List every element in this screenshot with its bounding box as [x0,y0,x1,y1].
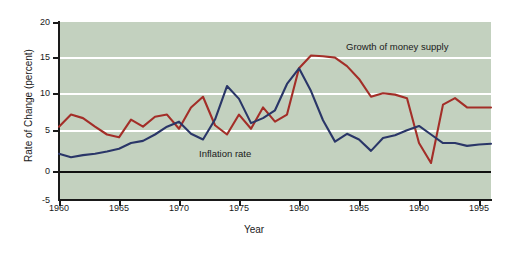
ytick-mark-10 [53,93,58,95]
ytick-mark-0 [53,171,58,173]
xtick-label-1960: 1960 [39,203,79,213]
annotation-growth-of-money-supply: Growth of money supply [346,41,448,52]
xtick-label-1985: 1985 [339,203,379,213]
annotation-inflation-rate: Inflation rate [199,148,251,159]
ytick-mark-5 [53,130,58,132]
xtick-label-1970: 1970 [159,203,199,213]
ytick-mark-20 [53,22,58,24]
xtick-label-1990: 1990 [399,203,439,213]
line-inflation-rate [59,68,491,157]
xtick-label-1995: 1995 [459,203,499,213]
xtick-label-1975: 1975 [219,203,259,213]
y-axis-label: Rate of Change (percent) [23,26,34,186]
chart-figure: 20 15 10 5 0 -5 1960 1965 1970 1975 1980… [0,0,508,255]
xtick-label-1980: 1980 [279,203,319,213]
xtick-label-1965: 1965 [99,203,139,213]
ytick-mark-15 [53,57,58,59]
x-axis-label: Year [0,224,508,235]
